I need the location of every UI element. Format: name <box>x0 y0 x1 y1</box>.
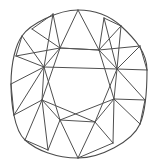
gem-diagram-container: Cushion cut diamond facet diagram <box>0 0 157 167</box>
cushion-cut-diamond-icon: Cushion cut diamond facet diagram <box>0 0 157 167</box>
gem-outline-path <box>11 10 147 158</box>
